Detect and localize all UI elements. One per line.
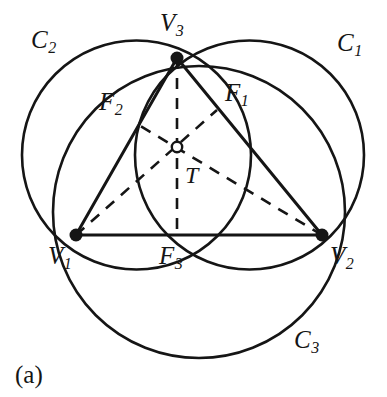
circle-C3 <box>53 66 345 358</box>
label-center-T: T <box>185 163 198 187</box>
geometry-figure: C1 C2 C3 V1 V2 V3 F1 F2 F3 T (a) <box>0 0 387 397</box>
label-point-F1-sub: 1 <box>241 92 249 109</box>
figure-canvas <box>0 0 387 397</box>
center-marker-t <box>172 142 182 152</box>
figure-caption: (a) <box>15 362 43 387</box>
label-circle-C2-base: C <box>31 26 48 53</box>
label-vertex-V1-sub: 1 <box>64 255 72 272</box>
label-circle-C1-base: C <box>337 29 354 56</box>
label-circle-C1: C1 <box>337 30 362 59</box>
label-point-F2: F2 <box>99 89 123 118</box>
label-vertex-V2: V2 <box>330 243 354 272</box>
vertex-marker-v3 <box>171 52 184 65</box>
label-vertex-V1-base: V <box>48 242 63 269</box>
label-circle-C2-sub: 2 <box>48 39 56 56</box>
label-circle-C3-base: C <box>294 326 311 353</box>
vertex-marker-v2 <box>316 229 329 242</box>
label-vertex-V3-sub: 3 <box>176 22 184 39</box>
label-vertex-V1: V1 <box>48 243 72 272</box>
label-point-F1: F1 <box>225 80 249 109</box>
label-circle-C3: C3 <box>294 327 319 356</box>
label-circle-C1-sub: 1 <box>354 42 362 59</box>
label-vertex-V3-base: V <box>160 9 175 36</box>
label-vertex-V2-sub: 2 <box>346 255 354 272</box>
label-point-F2-sub: 2 <box>115 101 123 118</box>
median-v2-f2 <box>137 124 322 235</box>
label-vertex-V2-base: V <box>330 242 345 269</box>
label-point-F2-base: F <box>99 88 114 115</box>
label-circle-C2: C2 <box>31 27 56 56</box>
segment-v3-v2 <box>177 58 322 235</box>
label-point-F3-base: F <box>159 242 174 269</box>
label-point-F3-sub: 3 <box>175 255 183 272</box>
vertex-marker-v1 <box>70 229 83 242</box>
label-circle-C3-sub: 3 <box>311 339 319 356</box>
circles-group <box>22 41 364 359</box>
solid-segments-group <box>76 58 322 235</box>
label-vertex-V3: V3 <box>160 10 184 39</box>
label-point-F3: F3 <box>159 243 183 272</box>
point-markers-group <box>70 52 329 242</box>
label-point-F1-base: F <box>225 79 240 106</box>
